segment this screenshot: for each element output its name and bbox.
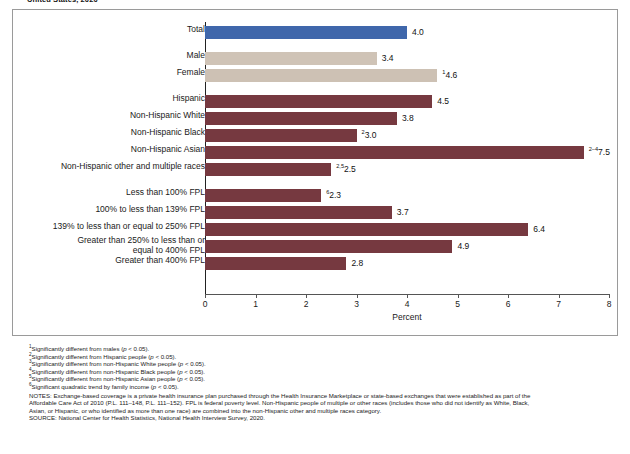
bar (205, 95, 432, 108)
bar-row: Non-Hispanic Black23.0 (13, 127, 619, 144)
bar (205, 206, 392, 219)
x-tick (458, 294, 459, 298)
bar-fill (205, 26, 407, 39)
value-number: 2.3 (329, 190, 341, 200)
bar-row: 100% to less than 139% FPL3.7 (13, 204, 619, 221)
bar (205, 129, 357, 142)
x-tick-label: 0 (203, 299, 208, 309)
bar-row: Greater than 250% to less than or equal … (13, 238, 619, 255)
value-number: 4.0 (412, 27, 424, 37)
bar (205, 146, 584, 159)
value-footnote-mark: 2–4 (589, 146, 598, 152)
bar-value-label: 2,52.5 (336, 163, 356, 176)
bar-fill (205, 112, 397, 125)
category-label: 100% to less than 139% FPL (0, 204, 205, 214)
bar-row: Non-Hispanic Asian2–47.5 (13, 144, 619, 161)
bar-value-label: 4.0 (412, 26, 424, 39)
value-number: 3.8 (402, 113, 414, 123)
category-label: Non-Hispanic Asian (0, 144, 205, 154)
category-label: Male (0, 50, 205, 60)
bar-fill (205, 223, 528, 236)
footnote-text: Significantly different from males ( (32, 345, 124, 352)
bar-value-label: 14.6 (442, 69, 457, 82)
category-label: Non-Hispanic Black (0, 127, 205, 137)
category-label: Less than 100% FPL (0, 187, 205, 197)
footnote-tail: < 0.05). (183, 360, 206, 367)
bar-fill (205, 257, 346, 270)
footnotes-block: 1Significantly different from males (p <… (29, 345, 614, 422)
bar-fill (205, 189, 321, 202)
bar-row: Hispanic4.5 (13, 93, 619, 110)
value-number: 2.8 (351, 258, 363, 268)
category-label: Greater than 400% FPL (0, 255, 205, 265)
bar-fill (205, 69, 437, 82)
category-label: Greater than 250% to less than or equal … (0, 236, 205, 255)
bar (205, 257, 346, 270)
value-number: 4.6 (445, 70, 457, 80)
bar-fill (205, 163, 331, 176)
x-tick-label: 7 (556, 299, 561, 309)
bar (205, 223, 528, 236)
x-tick-label: 3 (354, 299, 359, 309)
footnote-tail: < 0.05). (154, 353, 177, 360)
footnote-tail: < 0.05). (183, 368, 206, 375)
x-tick (508, 294, 509, 298)
value-number: 6.4 (533, 224, 545, 234)
x-tick-label: 6 (506, 299, 511, 309)
bar-value-label: 2.8 (351, 257, 363, 270)
x-tick-label: 1 (253, 299, 258, 309)
x-axis-title: Percent (205, 312, 609, 322)
footnote-tail: < 0.05). (127, 345, 150, 352)
x-tick (357, 294, 358, 298)
value-number: 2.5 (344, 164, 356, 174)
footnote-item: 6Significant quadratic trend by family i… (29, 383, 614, 391)
footnote-item: 1Significantly different from males (p <… (29, 345, 614, 353)
bar-value-label: 62.3 (326, 189, 341, 202)
value-number: 3.7 (397, 207, 409, 217)
bar-chart: 012345678 Percent Total4.0Male3.4Female1… (13, 10, 619, 337)
x-tick-label: 4 (405, 299, 410, 309)
category-label: Non-Hispanic White (0, 110, 205, 120)
bar-value-label: 3.7 (397, 206, 409, 219)
bar-row: Total4.0 (13, 24, 619, 41)
category-label: Non-Hispanic other and multiple races (0, 161, 205, 171)
value-number: 7.5 (598, 147, 610, 157)
bar-value-label: 4.5 (437, 95, 449, 108)
bar-row: Less than 100% FPL62.3 (13, 187, 619, 204)
notes-block: NOTES: Exchange-based coverage is a priv… (29, 392, 614, 415)
x-tick-label: 8 (607, 299, 612, 309)
category-label: Hispanic (0, 93, 205, 103)
value-number: 3.0 (365, 130, 377, 140)
bar-fill (205, 52, 377, 65)
bar-value-label: 2–47.5 (589, 146, 610, 159)
bar (205, 240, 452, 253)
notes-line-3: Asian, or Hispanic, or who identified as… (29, 407, 614, 415)
value-footnote-mark: 2,5 (336, 163, 344, 169)
bar (205, 52, 377, 65)
footnote-text: Significantly different from non-Hispani… (32, 375, 180, 382)
footnote-text: Significantly different from Hispanic pe… (32, 353, 151, 360)
figure-title: United States, 2020 (27, 0, 98, 4)
bar-value-label: 3.8 (402, 112, 414, 125)
bar-row: Greater than 400% FPL2.8 (13, 255, 619, 272)
bar-row: Female14.6 (13, 67, 619, 84)
bar-value-label: 6.4 (533, 223, 545, 236)
bar-fill (205, 206, 392, 219)
footnote-text: Significantly different from non-Hispani… (32, 360, 180, 367)
plot-frame: 012345678 Percent Total4.0Male3.4Female1… (12, 9, 618, 336)
x-tick-label: 2 (304, 299, 309, 309)
bar (205, 69, 437, 82)
bar (205, 112, 397, 125)
x-tick (407, 294, 408, 298)
x-tick (559, 294, 560, 298)
bar-value-label: 4.9 (457, 240, 469, 253)
footnote-list: 1Significantly different from males (p <… (29, 345, 614, 391)
source-line: SOURCE: National Center for Health Stati… (29, 414, 614, 422)
bar-fill (205, 146, 584, 159)
value-number: 4.5 (437, 96, 449, 106)
x-tick (306, 294, 307, 298)
bar-fill (205, 129, 357, 142)
bar-row: Non-Hispanic White3.8 (13, 110, 619, 127)
footnote-item: 5Significantly different from non-Hispan… (29, 375, 614, 383)
notes-line-2: Affordable Care Act of 2010 (P.L. 111–14… (29, 399, 614, 407)
